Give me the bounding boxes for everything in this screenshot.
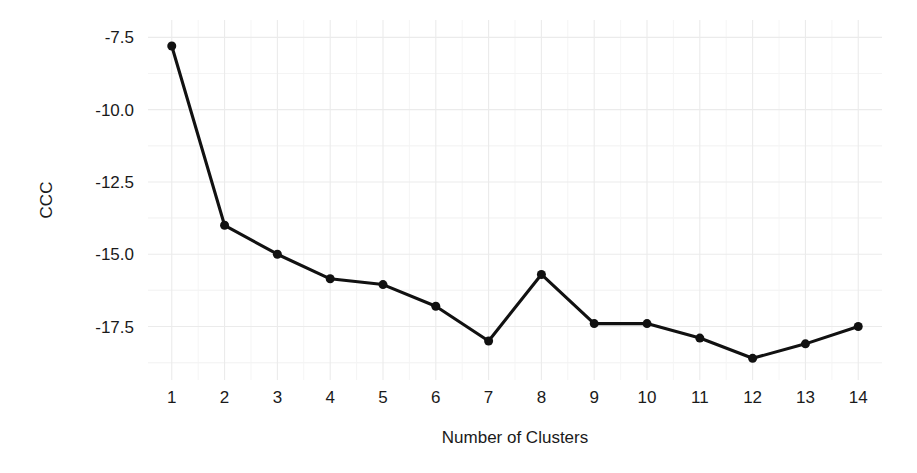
x-tick-label: 3 — [273, 388, 282, 407]
x-tick-label: 4 — [325, 388, 334, 407]
data-point — [643, 319, 652, 328]
data-point — [326, 274, 335, 283]
x-tick-label: 13 — [796, 388, 815, 407]
data-point — [220, 221, 229, 230]
data-point — [431, 302, 440, 311]
y-tick-label: -15.0 — [95, 245, 134, 264]
x-tick-label: 10 — [638, 388, 657, 407]
y-tick-label: -7.5 — [105, 28, 134, 47]
line-chart: 1234567891011121314 -7.5-10.0-12.5-15.0-… — [0, 0, 917, 473]
x-tick-label: 5 — [378, 388, 387, 407]
data-point — [748, 354, 757, 363]
x-axis-title: Number of Clusters — [442, 428, 588, 447]
x-tick-label: 2 — [220, 388, 229, 407]
data-point — [273, 250, 282, 259]
y-tick-label: -17.5 — [95, 318, 134, 337]
data-point — [484, 336, 493, 345]
x-tick-label: 1 — [167, 388, 176, 407]
data-point — [590, 319, 599, 328]
x-tick-label: 6 — [431, 388, 440, 407]
x-tick-label: 9 — [589, 388, 598, 407]
y-tick-label: -12.5 — [95, 173, 134, 192]
x-tick-label: 12 — [743, 388, 762, 407]
y-axis-title: CCC — [37, 182, 56, 219]
data-point — [801, 339, 810, 348]
data-point — [378, 280, 387, 289]
data-point — [854, 322, 863, 331]
chart-figure: 1234567891011121314 -7.5-10.0-12.5-15.0-… — [0, 0, 917, 473]
data-point — [537, 270, 546, 279]
data-point — [167, 42, 176, 51]
x-tick-label: 8 — [537, 388, 546, 407]
x-tick-label: 14 — [849, 388, 868, 407]
y-tick-label: -10.0 — [95, 101, 134, 120]
data-point — [695, 334, 704, 343]
x-tick-label: 11 — [691, 388, 709, 407]
x-tick-label: 7 — [484, 388, 493, 407]
